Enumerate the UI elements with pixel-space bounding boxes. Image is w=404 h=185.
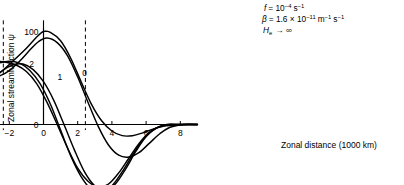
curve-series-0 xyxy=(0,31,197,136)
annotation-beta-unit1-exp: −1 xyxy=(325,14,332,20)
x-tick-label--2: −2 xyxy=(4,128,14,138)
chart-figure: −8−6−4−2024680100 01234 Zonal distance (… xyxy=(0,0,404,185)
y-tick-label-0: 0 xyxy=(34,120,39,130)
y-tick-label-100: 100 xyxy=(24,27,38,37)
annotation-beta-unit2-exp: −1 xyxy=(337,14,344,20)
curve-label-1: 1 xyxy=(57,72,62,82)
annotation-coriolis-exp: −4 xyxy=(285,3,292,9)
x-tick-label-6: 6 xyxy=(144,128,149,138)
zonal-streamfunction-chart: −8−6−4−2024680100 01234 Zonal distance (… xyxy=(0,0,404,185)
annotation-beta: β= 1.6 × 10−11m−1s−1 xyxy=(261,14,344,24)
curve-series-2 xyxy=(0,61,197,185)
x-tick-label-8: 8 xyxy=(178,128,183,138)
x-tick-label-2: 2 xyxy=(75,128,80,138)
x-tick-label-4: 4 xyxy=(110,128,115,138)
curves-layer xyxy=(0,31,197,185)
annotations-layer: f= 10−4s−1 β= 1.6 × 10−11m−1s−1 He→ ∞ xyxy=(261,3,344,36)
curve-label-0: 0 xyxy=(82,68,87,78)
annotation-coriolis-eq: = 10 xyxy=(268,3,285,13)
annotation-coriolis-unit-exp: −1 xyxy=(298,3,305,9)
x-axis-title: Zonal distance (1000 km) xyxy=(281,140,377,150)
annotation-beta-symbol: β xyxy=(261,14,267,24)
annotation-h-subscript: e xyxy=(269,30,273,36)
y-axis-title: Zonal streamfunction ψ xyxy=(6,34,16,122)
tick-labels-layer: −8−6−4−2024680100 xyxy=(0,27,183,138)
annotation-beta-eq: = 1.6 × 10 xyxy=(269,14,307,24)
x-tick-label-0: 0 xyxy=(41,128,46,138)
curve-series-3 xyxy=(0,61,197,185)
curve-series-1 xyxy=(0,38,197,157)
annotation-h-rest: → ∞ xyxy=(275,25,292,35)
annotation-beta-exp: −11 xyxy=(306,14,316,20)
annotation-coriolis: f= 10−4s−1 xyxy=(264,3,304,13)
annotation-equivalent-depth: He→ ∞ xyxy=(263,25,292,36)
curve-label-2: 2 xyxy=(29,59,34,69)
